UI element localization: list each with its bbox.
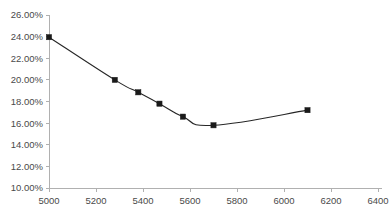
data-point-marker [112,77,117,82]
y-tick-label: 14.00% [11,139,44,150]
x-axis-tick-labels: 50005200540056005800600062006400 [38,195,388,206]
y-tick-label: 12.00% [11,161,44,172]
line-chart: 10.00%12.00%14.00%16.00%18.00%20.00%22.0… [0,0,390,218]
y-tick-label: 22.00% [11,53,44,64]
x-axis-tick-marks [49,188,378,192]
data-point-marker [180,114,185,119]
chart-canvas: 10.00%12.00%14.00%16.00%18.00%20.00%22.0… [0,0,390,218]
x-tick-label: 5800 [226,195,247,206]
data-point-marker [211,123,216,128]
x-tick-label: 6400 [367,195,388,206]
x-tick-label: 5000 [38,195,59,206]
x-tick-label: 5200 [85,195,106,206]
data-series-line [49,37,308,125]
y-tick-label: 18.00% [11,96,44,107]
y-tick-label: 16.00% [11,118,44,129]
y-axis-tick-marks [46,15,50,188]
x-tick-label: 5400 [132,195,153,206]
data-series-markers [46,35,310,128]
data-point-marker [136,90,141,95]
y-tick-label: 26.00% [11,9,44,20]
data-point-marker [305,108,310,113]
data-point-marker [46,35,51,40]
y-tick-label: 20.00% [11,74,44,85]
y-axis-tick-labels: 10.00%12.00%14.00%16.00%18.00%20.00%22.0… [11,9,44,193]
x-tick-label: 6000 [273,195,294,206]
x-tick-label: 5600 [179,195,200,206]
y-tick-label: 24.00% [11,31,44,42]
x-tick-label: 6200 [320,195,341,206]
data-point-marker [157,101,162,106]
y-tick-label: 10.00% [11,182,44,193]
